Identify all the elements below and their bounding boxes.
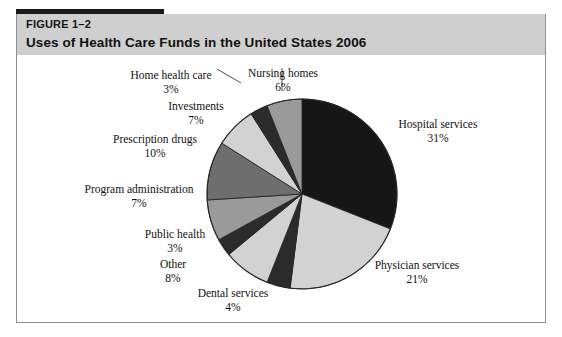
pie-label-public-health-name: Public health [125,228,225,242]
pie-label-prescription-drugs: Prescription drugs 10% [93,133,217,160]
pie-label-other: Other 8% [142,258,204,285]
pie-label-program-administration-name: Program administration [55,183,223,197]
pie-label-program-administration-value: 7% [55,197,223,211]
figure-title: Uses of Health Care Funds in the United … [26,33,545,52]
pie-label-program-administration: Program administration 7% [55,183,223,210]
pie-label-dental-services: Dental services 4% [177,287,289,314]
pie-label-hospital-services-name: Hospital services [380,118,496,132]
pie-label-dental-services-value: 4% [177,301,289,315]
pie-label-home-health-care-name: Home health care [115,69,227,83]
pie-label-prescription-drugs-value: 10% [93,147,217,161]
pie-label-physician-services-name: Physician services [356,259,478,273]
figure-root: FIGURE 1–2 Uses of Health Care Funds in … [0,0,562,337]
pie-label-physician-services-value: 21% [356,273,478,287]
pie-label-home-health-care: Home health care 3% [115,69,227,96]
pie-chart-area: Home health care 3% Nursing homes 6% Inv… [17,55,545,322]
pie-label-investments: Investments 7% [150,100,242,127]
pie-label-hospital-services-value: 31% [380,132,496,146]
pie-label-other-value: 8% [142,272,204,286]
pie-label-home-health-care-value: 3% [115,83,227,97]
pie-label-nursing-homes: Nursing homes 6% [235,67,331,94]
pie-label-investments-name: Investments [150,100,242,114]
pie-label-public-health-value: 3% [125,242,225,256]
pie-label-hospital-services: Hospital services 31% [380,118,496,145]
pie-label-prescription-drugs-name: Prescription drugs [93,133,217,147]
pie-label-nursing-homes-name: Nursing homes [235,67,331,81]
pie-label-public-health: Public health 3% [125,228,225,255]
pie-label-investments-value: 7% [150,114,242,128]
pie-label-dental-services-name: Dental services [177,287,289,301]
pie-label-other-name: Other [142,258,204,272]
figure-number: FIGURE 1–2 [26,17,545,32]
figure-caption-band: FIGURE 1–2 Uses of Health Care Funds in … [16,14,546,55]
pie-label-nursing-homes-value: 6% [235,81,331,95]
pie-label-physician-services: Physician services 21% [356,259,478,286]
